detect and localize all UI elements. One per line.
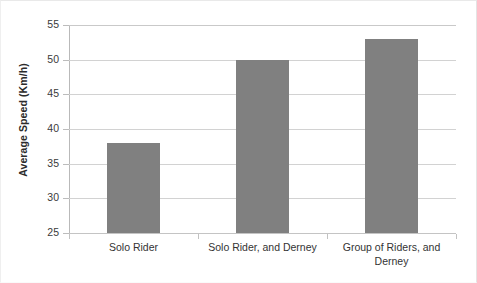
- y-axis-tick-label: 45: [33, 88, 59, 99]
- y-axis-tick-label: 50: [33, 54, 59, 65]
- y-axis-tick-label: 55: [33, 19, 59, 30]
- x-axis-tick: [198, 234, 199, 239]
- x-axis-tick: [327, 234, 328, 239]
- y-axis-tick-label: 25: [33, 227, 59, 238]
- y-axis-tick: [63, 129, 69, 130]
- bar: [365, 39, 418, 233]
- x-axis-tick: [69, 234, 70, 239]
- gridline: [69, 25, 456, 26]
- y-axis-tick: [63, 164, 69, 165]
- y-axis-tick-labels: 55504540353025: [27, 1, 59, 283]
- x-axis-tick: [456, 234, 457, 239]
- bar-chart-figure: Average Speed (Km/h) 55504540353025 Solo…: [0, 0, 477, 283]
- bar: [236, 60, 289, 233]
- y-axis-tick: [63, 94, 69, 95]
- y-axis-tick-label: 30: [33, 192, 59, 203]
- y-axis-tick-label: 40: [33, 123, 59, 134]
- y-axis-tick: [63, 198, 69, 199]
- x-axis-tick-labels: Solo RiderSolo Rider, and DerneyGroup of…: [69, 241, 456, 283]
- y-axis-tick: [63, 25, 69, 26]
- y-axis-tick-label: 35: [33, 158, 59, 169]
- y-axis-tick: [63, 60, 69, 61]
- x-axis-tick-label: Group of Riders, and Derney: [327, 241, 456, 283]
- x-axis-tick-label: Solo Rider, and Derney: [198, 241, 327, 283]
- plot-area: [69, 25, 456, 233]
- bar: [107, 143, 160, 233]
- x-axis-line: [69, 233, 456, 234]
- x-axis-tick-label: Solo Rider: [69, 241, 198, 283]
